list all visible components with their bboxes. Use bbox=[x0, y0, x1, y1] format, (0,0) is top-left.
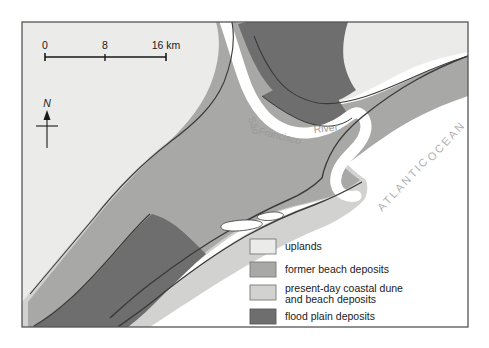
scale-label-8: 8 bbox=[102, 39, 108, 51]
map-figure: 0 8 16 km N São Francisco River ATLANTIC… bbox=[0, 0, 489, 348]
scale-label-0: 0 bbox=[42, 39, 48, 51]
legend-label-and-beach-deposits: and beach deposits bbox=[285, 293, 376, 305]
legend-swatch-former-beach-deposits[interactable] bbox=[250, 262, 276, 277]
scale-label-16: 16 km bbox=[152, 39, 181, 51]
legend-swatch-flood-plain-deposits[interactable] bbox=[250, 309, 276, 324]
legend-swatch-uplands[interactable] bbox=[250, 239, 276, 254]
legend-swatch-present-day-coastal-dune-and-beach-deposits[interactable] bbox=[250, 285, 276, 300]
north-arrow-label: N bbox=[43, 97, 51, 109]
coastal-geology-map: 0 8 16 km N São Francisco River ATLANTIC… bbox=[0, 0, 489, 348]
legend-label-flood-plain-deposits: flood plain deposits bbox=[285, 310, 375, 322]
legend-label-uplands: uplands bbox=[285, 240, 322, 252]
legend-label-former-beach-deposits: former beach deposits bbox=[285, 263, 389, 275]
